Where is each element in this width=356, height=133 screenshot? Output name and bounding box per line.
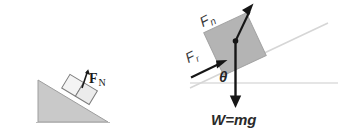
left-diagram-panel: F N xyxy=(0,0,178,133)
friction-force-label-group: F r xyxy=(182,46,202,68)
normal-force-subscript-label: N xyxy=(99,77,106,88)
angle-theta-label: θ xyxy=(219,68,228,85)
right-diagram-panel: F n F r θ W=mg xyxy=(178,0,356,133)
weight-label: W=mg xyxy=(211,111,256,128)
physics-figure: F N F n F r xyxy=(0,0,356,133)
normal-force-label: F xyxy=(89,71,98,86)
